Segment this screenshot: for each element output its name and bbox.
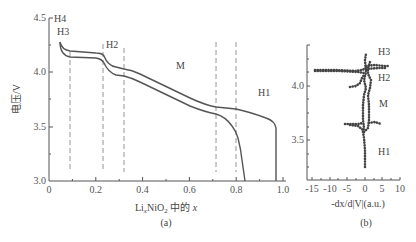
panel-b <box>307 45 400 180</box>
b-ytick-3.5: 3.5 <box>292 134 305 145</box>
label-H1: H1 <box>258 87 270 98</box>
a-xtick-0.4: 0.4 <box>136 184 149 195</box>
panel-b-caption: (b) <box>360 217 372 229</box>
b-xtick-0: 0 <box>363 183 368 194</box>
b-xtick-5: 5 <box>380 183 385 194</box>
a-ytick-4.0: 4.0 <box>34 66 47 77</box>
b-ytick-4.0: 4.0 <box>292 80 305 91</box>
label-H4: H4 <box>54 13 66 24</box>
label-H3: H3 <box>57 26 69 37</box>
b-label-H1: H1 <box>378 146 390 157</box>
figure-canvas: 4.5 4.0 3.5 3.0 0 0.2 0.4 0.6 0.8 1.0 H4… <box>0 0 416 242</box>
a-xtick-1.0: 1.0 <box>277 184 290 195</box>
a-x-ticks <box>72 177 283 181</box>
a-xtick-0: 0 <box>47 184 52 195</box>
b-xtick-neg5: -5 <box>343 183 351 194</box>
panel-a <box>49 18 286 181</box>
b-xtick-10: 10 <box>395 183 405 194</box>
a-xtick-0.2: 0.2 <box>90 184 103 195</box>
a-ytick-4.5: 4.5 <box>34 12 47 23</box>
a-xtick-0.6: 0.6 <box>183 184 196 195</box>
a-xtick-0.8: 0.8 <box>230 184 243 195</box>
a-x-axis-title: LixNiO2 中的 x <box>135 201 198 215</box>
label-M: M <box>176 60 185 71</box>
label-H2: H2 <box>106 39 118 50</box>
b-xtick-neg10: -10 <box>323 183 336 194</box>
a-ytick-3.5: 3.5 <box>34 121 47 132</box>
b-x-axis-title: -dx/d|V|(a.u.) <box>331 198 384 210</box>
a-y-axis-title: 电压/V <box>10 83 22 114</box>
a-phase-boundaries <box>70 42 236 172</box>
b-label-H2: H2 <box>378 72 390 83</box>
panel-a-text: 4.5 4.0 3.5 3.0 0 0.2 0.4 0.6 0.8 1.0 H4… <box>10 12 289 229</box>
panel-a-caption: (a) <box>160 217 171 229</box>
b-xtick-neg15: -15 <box>305 183 318 194</box>
b-label-M: M <box>379 98 388 109</box>
a-ytick-3.0: 3.0 <box>34 175 47 186</box>
a-curve-charge <box>60 42 276 181</box>
b-label-H3: H3 <box>378 46 390 57</box>
a-y-ticks <box>49 18 53 154</box>
panel-b-text: 4.0 3.5 -15 -10 -5 0 5 10 H3 H2 M H1 -dx… <box>292 46 406 229</box>
a-curve-discharge <box>60 42 245 181</box>
